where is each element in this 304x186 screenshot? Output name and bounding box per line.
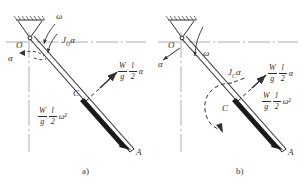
alpha-label-a: α	[8, 54, 13, 63]
point-label-c-b: C	[222, 104, 228, 113]
point-label-a-b: A	[288, 148, 294, 157]
tangential-force-tail-b: α	[289, 69, 293, 78]
ceiling-support-b	[166, 16, 197, 40]
omega-arc-a	[44, 24, 55, 44]
point-label-o-a: O	[16, 41, 23, 50]
moment-factor-a: α	[70, 35, 75, 45]
tangential-inertia-arrow-a	[86, 72, 117, 101]
fraction-l-over-2-b2: l 2	[273, 92, 281, 111]
point-label-a-a: A	[136, 148, 142, 157]
rod-a	[30, 36, 134, 152]
moment-arc-a	[48, 34, 57, 53]
ceiling-support-a	[14, 16, 45, 40]
figure-container: ω O α JOα C A W g l 2 α W g l 2 ω² a)	[0, 0, 304, 186]
normal-force-tail-a: ω²	[59, 112, 67, 121]
fraction-w-over-g-a2: W g	[38, 107, 47, 126]
moment-label-b: JCα	[228, 68, 241, 79]
moment-label-a: JOα	[62, 36, 75, 47]
tangential-force-tail-a: α	[139, 67, 143, 76]
fraction-l-over-2-b: l 2	[279, 64, 287, 83]
panel-b-drawing	[158, 16, 298, 152]
alpha-label-b: α	[158, 60, 163, 69]
fraction-l-over-2-a2: l 2	[49, 107, 57, 126]
point-label-o-b: O	[168, 41, 175, 50]
normal-force-tail-b: ω²	[283, 97, 291, 106]
panel-a-drawing	[6, 16, 146, 152]
moment-factor-b: α	[236, 67, 241, 77]
fraction-w-over-g-b2: W g	[262, 92, 271, 111]
normal-force-label-a: W g l 2 ω²	[38, 107, 67, 126]
omega-label-b: ω	[203, 49, 209, 58]
fraction-w-over-g-a: W g	[118, 62, 127, 81]
omega-arc-b	[195, 27, 203, 56]
point-label-c-a: C	[73, 89, 79, 98]
panel-caption-a: a)	[82, 167, 89, 176]
tangential-force-label-a: W g l 2 α	[118, 62, 143, 81]
alpha-arc-a	[19, 50, 46, 60]
panel-caption-b: b)	[236, 167, 244, 176]
tangential-force-label-b: W g l 2 α	[268, 64, 293, 83]
omega-label-a: ω	[56, 12, 62, 21]
figure-drawing	[0, 0, 304, 186]
normal-force-label-b: W g l 2 ω²	[262, 92, 291, 111]
fraction-w-over-g-b: W g	[268, 64, 277, 83]
normal-inertia-arrow-a	[80, 98, 131, 150]
fraction-l-over-2-a: l 2	[129, 62, 137, 81]
